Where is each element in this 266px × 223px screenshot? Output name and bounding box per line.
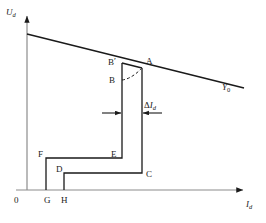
point-label-a: A: [146, 57, 153, 66]
point-label-g: G: [44, 196, 51, 205]
segment-bprime-to-a: [122, 63, 142, 68]
stepped-trajectory-right: [64, 68, 142, 190]
point-label-h: H: [61, 196, 68, 205]
delta-id-label: ΔId: [144, 101, 156, 110]
origin-label: 0: [14, 196, 19, 205]
point-label-b-prime: B′: [108, 58, 116, 67]
x-axis-label: Id: [246, 200, 252, 209]
source-droop-line-y0: [27, 34, 244, 88]
point-label-b: B: [109, 76, 115, 85]
point-label-d: D: [56, 165, 63, 174]
dashed-transition-b-to-a: [122, 69, 141, 80]
point-label-e: E: [111, 150, 117, 159]
point-label-f: F: [38, 150, 43, 159]
point-label-c: C: [146, 170, 152, 179]
y-axis-label: Ud: [6, 8, 16, 17]
curve-label-y0: Y0: [222, 83, 230, 92]
diagram-canvas: Ud Id 0 Y0 A B′ B C D E F G H ΔId: [0, 0, 266, 223]
diagram-vector-layer: [0, 0, 266, 223]
